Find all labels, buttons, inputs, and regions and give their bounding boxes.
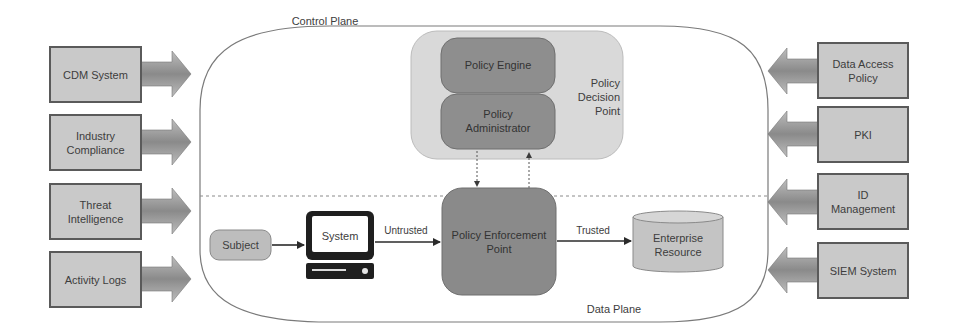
control-plane-label: Control Plane	[280, 14, 370, 28]
enterprise-resource-label: Enterprise Resource	[648, 231, 708, 259]
data-access-policy-box: Data Access Policy	[817, 42, 909, 99]
diagram-canvas	[0, 0, 956, 334]
pep-label: Policy Enforcement Point	[448, 228, 550, 256]
data-access-policy-label: Data Access Policy	[827, 57, 899, 85]
cdm-system-label: CDM System	[63, 68, 128, 82]
policy-administrator-label: Policy Administrator	[456, 107, 540, 135]
right-input-arrows	[768, 48, 818, 293]
untrusted-label: Untrusted	[376, 224, 436, 238]
id-management-label: ID Management	[829, 188, 897, 216]
computer-icon	[306, 211, 374, 279]
industry-compliance-box: Industry Compliance	[49, 114, 142, 171]
threat-intelligence-box: Threat Intelligence	[49, 183, 142, 240]
id-management-box: ID Management	[817, 173, 909, 230]
pki-box: PKI	[817, 106, 909, 163]
left-input-arrows	[141, 51, 191, 302]
activity-logs-label: Activity Logs	[65, 273, 127, 287]
system-label: System	[312, 229, 368, 243]
activity-logs-box: Activity Logs	[49, 251, 142, 308]
trusted-label: Trusted	[568, 224, 618, 238]
pki-label: PKI	[854, 128, 872, 142]
cdm-system-box: CDM System	[49, 46, 142, 103]
pdp-label: Policy Decision Point	[566, 76, 620, 118]
siem-system-box: SIEM System	[817, 242, 909, 299]
threat-intelligence-label: Threat Intelligence	[61, 198, 130, 226]
subject-label: Subject	[210, 238, 271, 252]
industry-compliance-label: Industry Compliance	[65, 129, 126, 157]
siem-system-label: SIEM System	[830, 264, 897, 278]
data-plane-label: Data Plane	[574, 302, 654, 316]
policy-engine-label: Policy Engine	[441, 58, 555, 72]
